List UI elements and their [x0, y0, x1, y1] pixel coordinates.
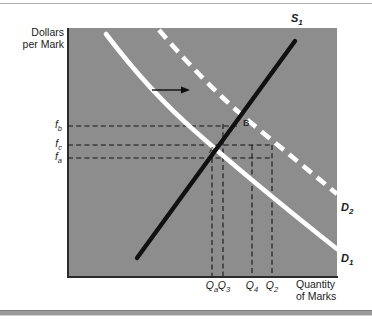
curve-label-s1: S1	[291, 12, 303, 28]
y-axis-title-line1: Dollars	[8, 27, 64, 39]
point-label-a: A	[209, 145, 215, 156]
point-label-b: B	[243, 118, 249, 129]
x-tick-q3: Q3	[213, 280, 235, 294]
curve-label-d1: D1	[341, 252, 353, 268]
y-axis-title-line2: per Mark	[8, 39, 64, 51]
y-axis-line	[67, 28, 69, 278]
curve-label-s1-sub: 1	[298, 18, 302, 27]
x-tick-q2-base: Q	[266, 279, 274, 291]
curve-label-d2-base: D	[341, 201, 349, 213]
x-axis-title-line2: of Marks	[296, 291, 336, 303]
x-tick-q2-sub: 2	[274, 285, 278, 294]
y-tick-fb: fb	[40, 119, 62, 133]
curve-label-d2: D2	[341, 201, 353, 217]
plot-panel	[68, 28, 337, 276]
x-tick-q2: Q2	[261, 280, 283, 294]
curve-label-d1-sub: 1	[349, 258, 353, 267]
x-tick-q3-base: Q	[218, 279, 226, 291]
x-axis-title-line1: Quantity	[296, 279, 336, 291]
y-axis-title: Dollars per Mark	[8, 27, 64, 51]
x-axis-title: Quantity of Marks	[296, 279, 336, 303]
figure-root: Dollars per Mark Quantity of Marks fb fc…	[0, 0, 372, 321]
figure-top-rule	[0, 3, 372, 4]
x-tick-q3-sub: 3	[226, 285, 230, 294]
curve-label-d1-base: D	[341, 252, 349, 264]
x-tick-q4-sub: 4	[254, 285, 258, 294]
x-tick-q4-base: Q	[246, 279, 254, 291]
y-tick-fa: fa	[40, 151, 62, 165]
curve-label-d2-sub: 2	[349, 207, 353, 216]
figure-bottom-rule	[0, 310, 372, 316]
y-tick-fb-sub: b	[58, 124, 62, 133]
y-tick-fa-sub: a	[58, 156, 62, 165]
x-tick-q4: Q4	[241, 280, 263, 294]
